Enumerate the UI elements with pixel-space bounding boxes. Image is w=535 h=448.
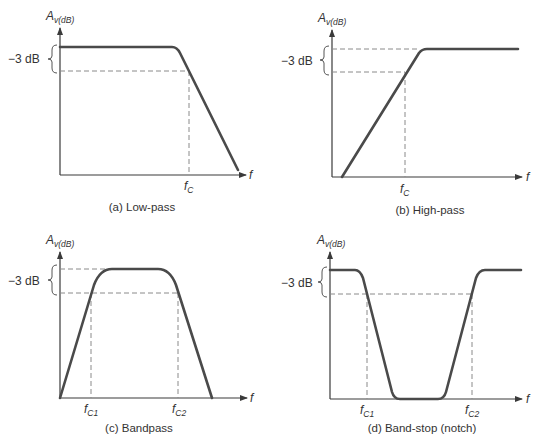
response-curve [342, 49, 518, 177]
db-brace [320, 46, 329, 75]
cutoff-2-label: fC2 [465, 403, 479, 419]
x-axis-label: f [249, 168, 254, 182]
y-axis-label: Av(dB) [316, 233, 345, 249]
cutoff-1-label: fC1 [84, 402, 98, 418]
cutoff-label: fC [184, 179, 194, 195]
cutoff-2-label: fC2 [172, 402, 186, 418]
x-axis-label: f [526, 170, 531, 184]
db-label: −3 dB [8, 274, 40, 288]
db-brace [318, 267, 327, 297]
db-brace [48, 45, 57, 73]
panel-high-pass: Av(dB) f −3 dB fC (b) High-pass [281, 11, 531, 216]
db-brace [48, 265, 57, 295]
y-axis-label: Av(dB) [45, 9, 74, 25]
db-label: −3 dB [8, 52, 40, 66]
y-axis-label: Av(dB) [45, 233, 74, 249]
caption: (d) Band-stop (notch) [368, 422, 477, 434]
filter-response-figure: Av(dB) f −3 dB fC (a) Low-pass Av(dB) f … [0, 0, 535, 448]
panel-low-pass: Av(dB) f −3 dB fC (a) Low-pass [8, 9, 254, 213]
response-curve [60, 47, 238, 170]
panel-band-stop: Av(dB) f −3 dB fC1 fC2 (d) Band-stop (no… [281, 233, 531, 434]
panel-bandpass: Av(dB) f −3 dB fC1 fC2 (c) Bandpass [8, 233, 255, 434]
cutoff-1-label: fC1 [360, 403, 374, 419]
response-curve [330, 270, 521, 399]
response-curve [60, 269, 212, 398]
db-label: −3 dB [281, 54, 313, 68]
caption: (a) Low-pass [109, 201, 176, 213]
cutoff-label: fC [400, 182, 410, 198]
caption: (c) Bandpass [105, 422, 173, 434]
x-axis-label: f [526, 392, 531, 406]
caption: (b) High-pass [395, 204, 464, 216]
y-axis-label: Av(dB) [317, 11, 346, 27]
x-axis-label: f [250, 391, 255, 405]
db-label: −3 dB [281, 276, 313, 290]
